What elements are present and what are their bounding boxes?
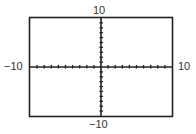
axes	[30, 18, 172, 116]
graph-window	[0, 0, 196, 134]
